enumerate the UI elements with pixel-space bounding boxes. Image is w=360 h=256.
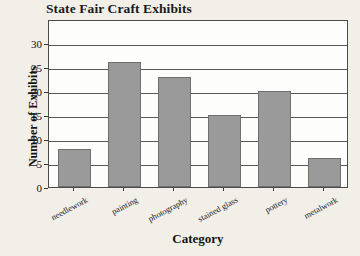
gridline [49, 141, 347, 142]
x-tick-mark [73, 188, 74, 191]
bar [108, 62, 141, 187]
y-tick-mark [44, 164, 48, 165]
x-tick-label-text: photography [146, 195, 189, 224]
gridline [49, 165, 347, 166]
y-tick-mark [44, 68, 48, 69]
y-tick-mark [44, 140, 48, 141]
y-tick-mark [44, 116, 48, 117]
chart-title: State Fair Craft Exhibits [46, 1, 192, 17]
bar [308, 158, 341, 187]
y-tick-label: 20 [16, 87, 42, 98]
y-tick-mark [44, 92, 48, 93]
x-tick-label-text: metalwork [302, 195, 339, 221]
x-tick-label-text: painting [110, 195, 140, 217]
bar [158, 77, 191, 187]
y-tick-mark [44, 188, 48, 189]
plot-area [48, 20, 348, 188]
bar [258, 91, 291, 187]
gridline [49, 117, 347, 118]
bar [58, 149, 91, 187]
y-tick-label: 10 [16, 135, 42, 146]
gridline [49, 69, 347, 70]
x-tick-label-text: stained glass [196, 195, 239, 224]
y-tick-label: 0 [16, 183, 42, 194]
bar [208, 115, 241, 187]
y-tick-mark [44, 44, 48, 45]
x-tick-label-text: pottery [263, 195, 289, 215]
y-tick-label: 5 [16, 159, 42, 170]
y-tick-label: 15 [16, 111, 42, 122]
bar-chart-figure: State Fair Craft Exhibits Number of Exhi… [0, 0, 360, 256]
x-tick-mark [123, 188, 124, 191]
x-tick-label-text: needlework [49, 195, 89, 223]
y-tick-label: 25 [16, 63, 42, 74]
x-tick-mark [223, 188, 224, 191]
gridline [49, 93, 347, 94]
gridline [49, 45, 347, 46]
x-tick-mark [273, 188, 274, 191]
y-tick-label: 30 [16, 39, 42, 50]
x-tick-mark [173, 188, 174, 191]
x-tick-mark [323, 188, 324, 191]
